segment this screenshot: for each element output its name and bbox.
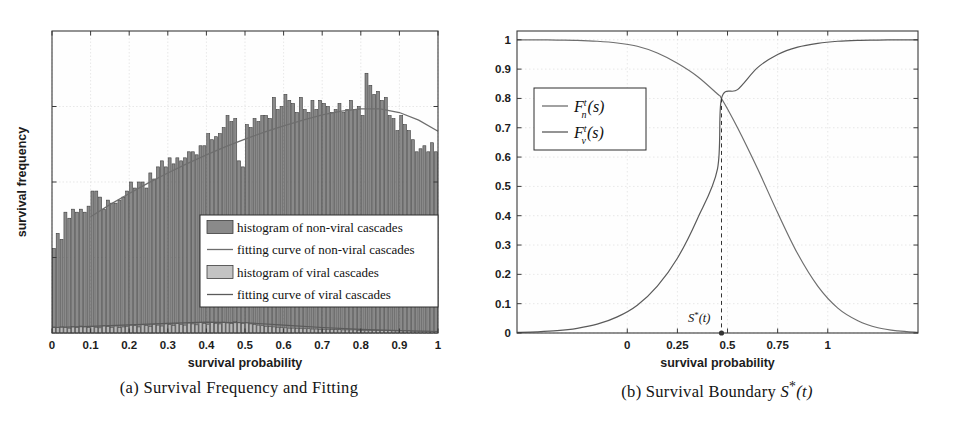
bar-nonviral bbox=[110, 203, 113, 333]
bar-viral bbox=[265, 326, 268, 333]
bar-viral bbox=[284, 328, 287, 333]
xaxis-title-b: survival probability bbox=[660, 356, 775, 370]
bar-viral bbox=[133, 326, 136, 333]
xtick-label: 0.8 bbox=[353, 339, 370, 351]
xtick-label: 0 bbox=[624, 339, 630, 351]
xtick-label: 1 bbox=[435, 339, 442, 351]
legend-b: Ftn(s)Ftv(s) bbox=[534, 88, 646, 150]
xtick-label: 0.25 bbox=[666, 339, 689, 351]
xtick-label: 0.7 bbox=[314, 339, 330, 351]
legend-label: fitting curve of viral cascades bbox=[237, 287, 391, 302]
bar-viral bbox=[288, 328, 291, 333]
bar-viral bbox=[269, 327, 272, 333]
bar-viral bbox=[214, 323, 217, 333]
bar-viral bbox=[87, 328, 90, 333]
bar-viral bbox=[245, 322, 248, 333]
legend-label: histogram of viral cascades bbox=[237, 265, 379, 280]
bar-nonviral bbox=[176, 158, 179, 333]
bar-viral bbox=[118, 328, 121, 333]
bar-viral bbox=[99, 328, 102, 333]
bar-viral bbox=[180, 325, 183, 333]
xtick-label: 0.6 bbox=[276, 339, 292, 351]
bar-nonviral bbox=[60, 239, 63, 333]
bar-viral bbox=[83, 327, 86, 333]
xtick-label: 0.9 bbox=[391, 339, 407, 351]
bar-nonviral bbox=[141, 182, 144, 333]
bar-viral bbox=[76, 328, 79, 333]
bar-viral bbox=[187, 323, 190, 333]
ytick-label: 0.2 bbox=[495, 268, 511, 280]
bar-viral bbox=[195, 325, 198, 333]
ytick-label: 1 bbox=[505, 34, 512, 46]
bar-viral bbox=[164, 324, 167, 333]
ytick-label: 0.5 bbox=[495, 180, 512, 192]
bar-nonviral bbox=[68, 218, 71, 333]
bar-viral bbox=[103, 326, 106, 333]
bar-nonviral bbox=[145, 188, 148, 333]
bar-viral bbox=[226, 323, 229, 333]
bar-viral bbox=[207, 324, 210, 333]
ytick-label: 0.3 bbox=[495, 239, 511, 251]
ytick-label: 0.8 bbox=[495, 92, 512, 104]
xtick-label: 1 bbox=[825, 339, 832, 351]
bar-viral bbox=[211, 322, 214, 333]
subfigure-b: S*(t)00.10.20.30.40.50.60.70.80.9100.250… bbox=[478, 0, 956, 442]
bar-nonviral bbox=[191, 152, 194, 333]
caption-b: (b) Survival Boundary S*(t) bbox=[478, 378, 956, 402]
bar-viral bbox=[141, 325, 144, 333]
bar-nonviral bbox=[79, 209, 82, 333]
bar-viral bbox=[95, 327, 98, 333]
bar-viral bbox=[303, 329, 306, 333]
bar-nonviral bbox=[130, 182, 133, 333]
ytick-label: 0.6 bbox=[495, 151, 511, 163]
legend-swatch bbox=[207, 266, 233, 279]
bar-nonviral bbox=[114, 203, 117, 333]
bar-nonviral bbox=[64, 212, 67, 333]
xtick-label: 0.3 bbox=[160, 339, 176, 351]
bar-viral bbox=[307, 329, 310, 333]
figure-root: 00.10.20.30.40.50.60.70.80.91survival pr… bbox=[0, 0, 956, 442]
bar-nonviral bbox=[122, 197, 125, 333]
bar-viral bbox=[110, 327, 113, 333]
bar-viral bbox=[56, 328, 59, 333]
bar-viral bbox=[238, 323, 241, 333]
bar-nonviral bbox=[195, 155, 198, 333]
caption-a: (a) Survival Frequency and Fitting bbox=[0, 378, 478, 398]
bar-nonviral bbox=[133, 188, 136, 333]
xtick-label: 0.5 bbox=[720, 339, 737, 351]
bar-viral bbox=[241, 323, 244, 333]
bar-nonviral bbox=[52, 248, 55, 333]
bar-nonviral bbox=[87, 206, 90, 333]
bar-nonviral bbox=[160, 161, 163, 333]
bar-viral bbox=[230, 324, 233, 333]
bar-viral bbox=[68, 328, 71, 333]
legend-a: histogram of non-viral cascadesfitting c… bbox=[200, 215, 438, 307]
bar-viral bbox=[199, 323, 202, 333]
legend-label: fitting curve of non-viral cascades bbox=[237, 242, 415, 257]
bar-nonviral bbox=[168, 158, 171, 333]
bar-nonviral bbox=[187, 152, 190, 333]
caption-b-math: S*(t) bbox=[780, 382, 812, 401]
xtick-label: 0.1 bbox=[83, 339, 100, 351]
bar-viral bbox=[311, 329, 314, 333]
bar-viral bbox=[137, 327, 140, 333]
xtick-labels-b: 00.250.50.751 bbox=[624, 339, 832, 351]
bar-viral bbox=[234, 322, 237, 333]
bar-nonviral bbox=[72, 209, 75, 333]
bar-nonviral bbox=[83, 212, 86, 333]
bar-nonviral bbox=[91, 191, 94, 333]
bar-viral bbox=[218, 324, 221, 333]
bar-viral bbox=[106, 327, 109, 333]
bar-viral bbox=[296, 328, 299, 333]
bar-nonviral bbox=[157, 167, 160, 333]
bar-nonviral bbox=[137, 182, 140, 333]
yaxis-title-a: survival frequency bbox=[15, 127, 29, 238]
bar-viral bbox=[72, 327, 75, 333]
ytick-label: 0.1 bbox=[495, 298, 512, 310]
bar-nonviral bbox=[118, 200, 121, 333]
xtick-label: 0.5 bbox=[237, 339, 254, 351]
bar-viral bbox=[276, 327, 279, 333]
bar-viral bbox=[261, 326, 264, 333]
bar-nonviral bbox=[126, 191, 129, 333]
ytick-label: 0.9 bbox=[495, 63, 511, 75]
